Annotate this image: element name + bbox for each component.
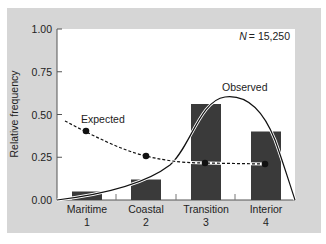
- n-symbol: N: [239, 30, 247, 42]
- cat-interior: Interior: [250, 203, 283, 215]
- expected-point-3: [202, 160, 209, 167]
- y-axis-label: Relative frequency: [8, 70, 20, 158]
- ytick-0.50: 0.50: [32, 109, 53, 121]
- bar-transition: [191, 104, 221, 200]
- cat-maritime: Maritime: [67, 203, 107, 215]
- cat-coastal-index: 2: [143, 216, 149, 228]
- ytick-0.00: 0.00: [32, 194, 53, 206]
- ytick-1.00: 1.00: [32, 23, 53, 35]
- n-value: = 15,250: [249, 30, 290, 42]
- expected-point-1: [83, 128, 90, 135]
- ytick-0.75: 0.75: [32, 66, 53, 78]
- cat-interior-index: 4: [263, 216, 269, 228]
- category-labels: Maritime 1 Coastal 2 Transition 3 Interi…: [67, 203, 283, 228]
- expected-point-4: [262, 161, 269, 168]
- chart-svg: 1.00 0.75 0.50 0.25 0.00 Relative freque…: [0, 0, 326, 244]
- cat-maritime-index: 1: [84, 216, 90, 228]
- cat-transition-index: 3: [203, 216, 209, 228]
- ytick-0.25: 0.25: [32, 151, 53, 163]
- cat-transition: Transition: [183, 203, 229, 215]
- observed-label: Observed: [222, 81, 268, 93]
- expected-label: Expected: [81, 113, 125, 125]
- expected-point-2: [143, 153, 150, 160]
- cat-coastal: Coastal: [128, 203, 164, 215]
